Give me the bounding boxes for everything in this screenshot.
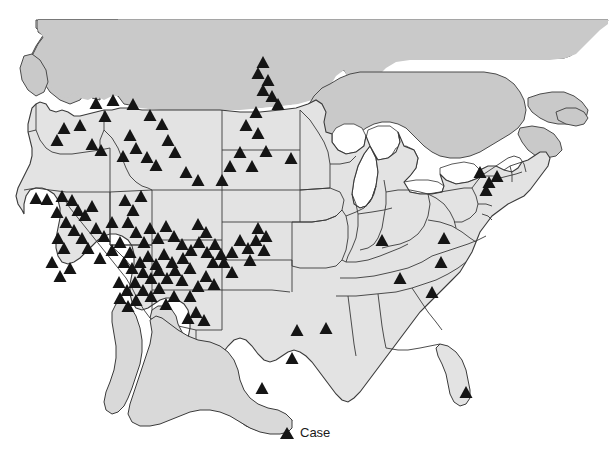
case-marker (90, 97, 103, 109)
triangle-marker-icon (280, 427, 294, 439)
case-marker (94, 252, 107, 264)
legend-label-case: Case (300, 426, 330, 439)
us-case-distribution-map: Case (0, 0, 611, 458)
case-marker (46, 256, 59, 268)
case-marker (30, 192, 43, 204)
case-marker (41, 193, 54, 205)
case-marker (113, 276, 126, 288)
case-marker (64, 262, 77, 274)
map-canvas (0, 0, 611, 458)
case-marker (54, 270, 67, 282)
map-legend: Case (280, 426, 330, 439)
